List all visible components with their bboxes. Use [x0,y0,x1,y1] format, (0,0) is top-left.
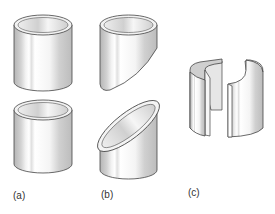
figure-canvas: (a) (b) (c) [0,0,275,214]
cylinder-c-split [190,59,263,137]
label-b: (b) [101,189,113,200]
cylinder-b-bottom [91,92,167,179]
label-c: (c) [188,187,200,198]
label-a: (a) [13,190,25,201]
cylinder-a-top [14,15,72,91]
cylinder-a-bottom [14,100,72,173]
cylinder-b-top [100,15,157,90]
cylinder-illustrations [0,0,275,214]
